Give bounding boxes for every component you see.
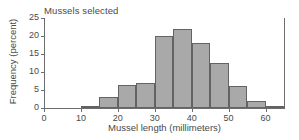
chart-title: Mussels selected (44, 5, 118, 16)
x-tick-mark (192, 108, 193, 112)
bar (247, 101, 265, 108)
bar (81, 106, 99, 108)
y-tick-label: 5 (34, 84, 39, 95)
x-axis-label: Mussel length (millimeters) (44, 122, 285, 133)
bar (99, 97, 117, 108)
x-tick-mark (155, 108, 156, 112)
y-axis-label: Frequency (percent) (7, 12, 18, 112)
bar (229, 86, 247, 108)
bar (210, 63, 228, 108)
bar (266, 106, 284, 108)
y-tick-label: 15 (29, 48, 39, 59)
bar-series (44, 18, 285, 108)
x-tick-mark (229, 108, 230, 112)
bar (155, 36, 173, 108)
x-tick-mark (44, 108, 45, 112)
x-tick-mark (266, 108, 267, 112)
y-tick-label: 10 (29, 66, 39, 77)
mussels-histogram-figure: Mussels selected Frequency (percent) 051… (0, 0, 299, 140)
y-tick-label: 20 (29, 30, 39, 41)
x-tick-mark (118, 108, 119, 112)
bar (136, 83, 154, 108)
x-tick-mark (81, 108, 82, 112)
bar (118, 85, 136, 108)
bar (192, 43, 210, 108)
plot-area: 0510152025 0102030405060 (44, 18, 285, 108)
y-tick-label: 0 (34, 102, 39, 113)
bar (173, 29, 191, 108)
y-tick-label: 25 (29, 12, 39, 23)
